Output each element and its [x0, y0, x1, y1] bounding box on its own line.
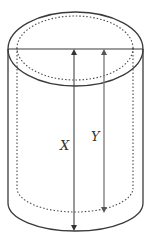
y-label: Y — [91, 129, 101, 144]
cylinder-diagram: X Y — [0, 0, 150, 241]
x-label: X — [59, 138, 70, 153]
inner-bottom-arc — [17, 188, 133, 212]
inner-top-ellipse — [17, 16, 133, 80]
outer-bottom-arc — [8, 203, 143, 231]
